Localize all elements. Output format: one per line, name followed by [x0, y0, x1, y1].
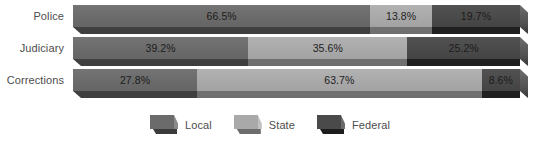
bar-right-cap-corrections	[520, 69, 528, 98]
bar-bottom-police-federal	[432, 27, 520, 34]
legend-swatch-side-state	[258, 115, 262, 129]
bar-police: 66.5% 13.8% 19.7%	[73, 5, 520, 27]
legend-label-local: Local	[185, 119, 212, 132]
segment-police-state[interactable]: 13.8%	[370, 5, 432, 27]
bar-bottom-corrections-federal	[482, 91, 520, 98]
bar-front-judiciary: 39.2% 35.6% 25.2%	[73, 37, 520, 59]
category-label-judiciary: Judiciary	[0, 41, 64, 55]
segment-value-corrections-state: 63.7%	[324, 75, 354, 86]
chart-row-judiciary: Judiciary 39.2% 35.6% 25.2%	[0, 37, 540, 69]
legend-item-federal[interactable]: Federal	[317, 115, 390, 135]
legend-swatch-bottom-federal	[320, 129, 344, 134]
legend-swatch-face-local	[150, 115, 174, 129]
segment-corrections-federal[interactable]: 8.6%	[482, 69, 520, 91]
legend-label-federal: Federal	[352, 119, 390, 132]
segment-judiciary-federal[interactable]: 25.2%	[407, 37, 520, 59]
segment-police-federal[interactable]: 19.7%	[432, 5, 520, 27]
bar-right-cap-police	[520, 5, 528, 34]
bar-front-corrections: 27.8% 63.7% 8.6%	[73, 69, 520, 91]
legend-item-local[interactable]: Local	[150, 115, 212, 135]
legend-label-state: State	[269, 119, 295, 132]
bar-bottom-corrections-local	[73, 91, 197, 98]
bar-bottom-corrections-state	[197, 91, 481, 98]
chart-legend: Local State Federal	[0, 110, 540, 140]
segment-judiciary-local[interactable]: 39.2%	[73, 37, 248, 59]
bar-bottom-judiciary-federal	[407, 59, 520, 66]
bar-bottom-police-local	[73, 27, 370, 34]
chart-row-corrections: Corrections 27.8% 63.7% 8.6%	[0, 69, 540, 101]
legend-item-state[interactable]: State	[234, 115, 295, 135]
segment-value-police-state: 13.8%	[386, 11, 416, 22]
bar-right-cap-judiciary	[520, 37, 528, 66]
legend-swatch-bottom-state	[237, 129, 261, 134]
bar-front-police: 66.5% 13.8% 19.7%	[73, 5, 520, 27]
bar-judiciary: 39.2% 35.6% 25.2%	[73, 37, 520, 59]
segment-corrections-local[interactable]: 27.8%	[73, 69, 197, 91]
chart-row-police: Police 66.5% 13.8% 19.7%	[0, 5, 540, 37]
stacked-bar-chart: Police 66.5% 13.8% 19.7%	[0, 0, 540, 145]
bar-corrections: 27.8% 63.7% 8.6%	[73, 69, 520, 91]
segment-value-judiciary-state: 35.6%	[313, 43, 343, 54]
segment-value-corrections-federal: 8.6%	[489, 75, 513, 86]
segment-value-judiciary-federal: 25.2%	[449, 43, 479, 54]
segment-police-local[interactable]: 66.5%	[73, 5, 370, 27]
segment-value-police-local: 66.5%	[206, 11, 236, 22]
legend-swatch-side-federal	[341, 115, 345, 129]
bar-bottom-judiciary-local	[73, 59, 248, 66]
legend-swatch-icon-local	[150, 115, 178, 135]
legend-swatch-face-federal	[317, 115, 341, 129]
segment-corrections-state[interactable]: 63.7%	[197, 69, 481, 91]
segment-value-judiciary-local: 39.2%	[145, 43, 175, 54]
legend-swatch-side-local	[174, 115, 178, 129]
bar-bottom-face-judiciary	[73, 59, 520, 66]
legend-swatch-icon-state	[234, 115, 262, 135]
segment-value-corrections-local: 27.8%	[120, 75, 150, 86]
legend-swatch-face-state	[234, 115, 258, 129]
bar-bottom-police-state	[370, 27, 432, 34]
category-label-corrections: Corrections	[0, 73, 64, 87]
bar-bottom-face-corrections	[73, 91, 520, 98]
bar-bottom-face-police	[73, 27, 520, 34]
segment-value-police-federal: 19.7%	[461, 11, 491, 22]
category-label-police: Police	[0, 9, 64, 23]
bar-bottom-judiciary-state	[248, 59, 407, 66]
segment-judiciary-state[interactable]: 35.6%	[248, 37, 407, 59]
legend-swatch-bottom-local	[153, 129, 177, 134]
legend-swatch-icon-federal	[317, 115, 345, 135]
